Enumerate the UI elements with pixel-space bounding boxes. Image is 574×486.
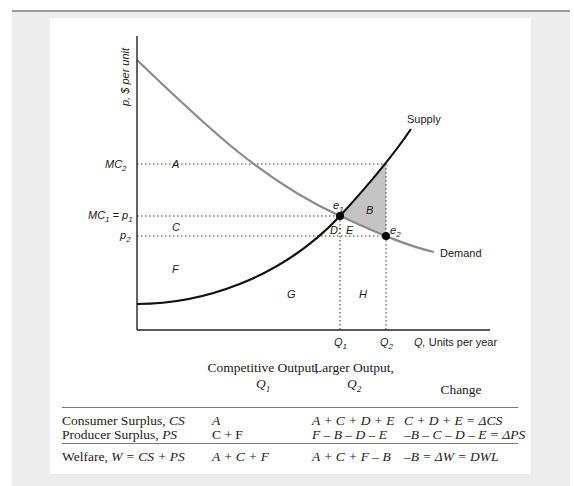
mc2-label: MC2 <box>105 158 127 173</box>
region-b-label: B <box>366 204 373 216</box>
region-d-label: D: <box>330 224 341 236</box>
table-row-producer-surplus: Producer Surplus, PS C + F F – B – D – E… <box>62 427 520 442</box>
mc1-p1-label: MC1 = p1 <box>88 209 133 224</box>
table-row-welfare: Welfare, W = CS + PS A + C + F A + C + F… <box>62 449 520 464</box>
point-e2 <box>382 232 390 240</box>
header-change: Change <box>404 382 518 398</box>
region-a-label: A <box>171 158 179 170</box>
region-f-label: F <box>172 263 180 275</box>
guide-lines <box>137 164 386 330</box>
q2-label: Q2 <box>380 336 394 351</box>
table-header: Competitive Output, Q1 Larger Output, Q2… <box>62 360 520 406</box>
table-header-rule <box>62 407 518 408</box>
supply-label: Supply <box>407 113 441 125</box>
e2-label: e2 <box>390 224 401 239</box>
region-h-label: H <box>359 288 367 300</box>
demand-label: Demand <box>440 247 482 259</box>
q1-label: Q1 <box>334 336 347 351</box>
table-row-consumer-surplus: Consumer Surplus, CS A A + C + D + E C +… <box>62 413 520 428</box>
e1-label: e1 <box>333 199 344 214</box>
y-axis-label: p, $ per unit <box>119 47 131 107</box>
region-c-label: C <box>172 221 180 233</box>
header-larger-output: Larger Output, Q2 <box>304 360 404 397</box>
table-welfare-rule <box>62 443 518 444</box>
p2-label: p2 <box>119 229 131 244</box>
x-axis-label: Q, Units per year <box>414 336 497 348</box>
region-e-label: E <box>346 224 354 236</box>
region-g-label: G <box>287 288 296 300</box>
